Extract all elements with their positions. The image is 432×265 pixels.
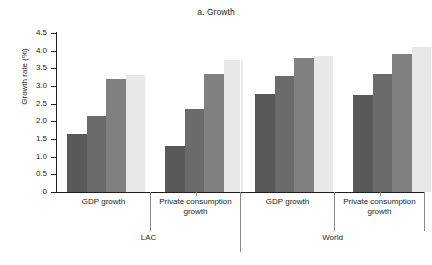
bar-lac-g0-s2 [106, 79, 126, 192]
category-label-1: Private consumption growth [151, 197, 240, 217]
label-block-right-edge [424, 192, 425, 231]
y-tick-mark [51, 86, 56, 87]
bar-lac-g1-s0 [165, 146, 185, 192]
bar-world-g3-s0 [353, 95, 373, 192]
y-tick-label: 3.5 [0, 64, 47, 72]
category-label-2: GDP growth [241, 197, 334, 207]
bar-lac-g0-s3 [126, 75, 146, 192]
bar-world-g3-s2 [392, 54, 412, 192]
category-tick-3 [380, 192, 381, 196]
y-tick-label: 3.0 [0, 82, 47, 90]
bar-lac-g1-s2 [204, 74, 224, 192]
bar-world-g2-s3 [314, 56, 334, 192]
y-tick-label: 1.0 [0, 153, 47, 161]
bar-world-g3-s1 [373, 74, 393, 192]
bar-world-g2-s1 [275, 76, 295, 192]
bar-world-g2-s0 [255, 94, 275, 192]
y-tick-mark [51, 104, 56, 105]
y-tick-mark [51, 121, 56, 122]
panel-label-lac: LAC [57, 233, 240, 243]
y-axis-title: Growth rate (%) [20, 7, 29, 147]
y-tick-mark [51, 51, 56, 52]
y-tick-label: 2.0 [0, 117, 47, 125]
bar-world-g3-s3 [412, 47, 432, 192]
panel-label-world: World [241, 233, 424, 243]
panel-divider-upper [240, 33, 241, 192]
y-tick-label: 0.5 [0, 170, 47, 178]
y-tick-label: 4.0 [0, 47, 47, 55]
growth-bar-chart-figure: a. Growth Growth rate (%) 4.54.03.53.02.… [0, 0, 432, 265]
bar-lac-g1-s1 [185, 109, 205, 192]
y-tick-label: 2.5 [0, 100, 47, 108]
category-tick-1 [196, 192, 197, 196]
bar-world-g2-s2 [294, 58, 314, 192]
y-tick-mark [51, 157, 56, 158]
y-tick-mark [51, 174, 56, 175]
y-tick-mark [51, 192, 56, 193]
y-tick-label: 4.5 [0, 29, 47, 37]
category-label-0: GDP growth [57, 197, 150, 207]
y-tick-mark [51, 68, 56, 69]
bar-lac-g0-s0 [67, 134, 87, 192]
chart-title: a. Growth [0, 7, 432, 17]
y-tick-label: 0 [0, 188, 47, 196]
category-label-3: Private consumption growth [335, 197, 424, 217]
bar-lac-g0-s1 [87, 116, 107, 192]
y-tick-label: 1.5 [0, 135, 47, 143]
y-tick-mark [51, 33, 56, 34]
plot-area [57, 33, 425, 192]
y-tick-mark [51, 139, 56, 140]
